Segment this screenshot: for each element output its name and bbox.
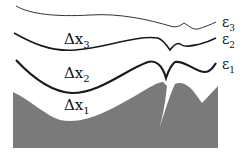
label-dx3: Δx3 [64, 30, 90, 50]
filled-terrain-region [13, 82, 218, 148]
label-epsilon-2: ε2 [222, 31, 235, 50]
label-dx1: Δx1 [64, 96, 90, 116]
label-dx2: Δx2 [64, 64, 90, 84]
layered-curves-diagram: Δx3 Δx2 Δx1 ε3 ε2 ε1 [0, 0, 249, 155]
curve-epsilon-3 [16, 6, 216, 29]
label-epsilon-1: ε1 [222, 56, 235, 75]
curve-epsilon-2 [14, 33, 216, 50]
